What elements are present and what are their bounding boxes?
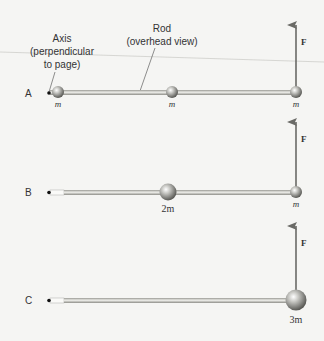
rod-leader-line <box>140 48 155 91</box>
mass-sphere <box>166 86 178 98</box>
axis-point-icon <box>47 91 51 95</box>
axis-point-icon <box>47 299 51 303</box>
row-label-a: A <box>25 88 32 99</box>
row-label-c: C <box>25 295 32 306</box>
mass-label: m <box>293 199 300 209</box>
rod-label: Rod (overhead view) <box>126 23 197 47</box>
mass-label: m <box>169 99 176 109</box>
mass-label: 3m <box>290 314 303 325</box>
mass-label: m <box>55 99 62 109</box>
rod-stub <box>50 298 64 303</box>
force-label: F <box>301 238 307 248</box>
mass-sphere <box>52 86 64 98</box>
svg-text:(perpendicular: (perpendicular <box>30 46 95 57</box>
svg-text:to page): to page) <box>44 59 81 70</box>
mass-sphere <box>290 86 302 98</box>
force-label: F <box>301 37 307 47</box>
axis-label: Axis (perpendicular to page) <box>30 33 95 70</box>
mass-sphere <box>160 184 177 201</box>
svg-text:Rod: Rod <box>153 23 171 34</box>
rod <box>64 298 296 303</box>
mass-sphere <box>286 290 307 311</box>
row-b: B F 2m m <box>25 122 307 214</box>
mass-label: 2m <box>162 203 175 214</box>
force-label: F <box>301 134 307 144</box>
mass-label: m <box>293 99 300 109</box>
row-c: C F 3m <box>25 226 307 325</box>
rod-stub <box>50 190 64 195</box>
rod-diagram: Axis (perpendicular to page) Rod (overhe… <box>0 0 324 341</box>
row-label-b: B <box>25 187 32 198</box>
svg-text:(overhead view): (overhead view) <box>126 36 197 47</box>
rod <box>64 190 296 195</box>
svg-text:Axis: Axis <box>53 33 72 44</box>
mass-sphere <box>290 186 302 198</box>
axis-point-icon <box>47 191 51 195</box>
